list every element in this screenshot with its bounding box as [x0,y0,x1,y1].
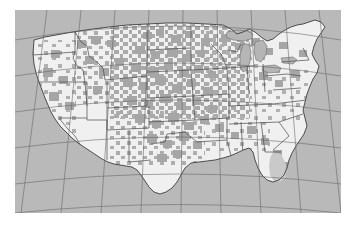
map-frame [15,10,341,213]
caption-strip [0,213,351,232]
figure-container [0,0,351,232]
us-map-image [15,10,341,213]
